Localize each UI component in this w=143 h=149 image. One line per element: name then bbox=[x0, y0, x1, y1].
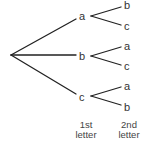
tree-diagram: a b c b c a c a b 1st letter 2nd letter bbox=[0, 0, 143, 149]
leaf-a-b: b bbox=[124, 0, 130, 11]
caption-second-line2: letter bbox=[118, 129, 139, 140]
node-b: b bbox=[79, 50, 85, 62]
edge-b-c bbox=[91, 56, 121, 65]
node-a: a bbox=[79, 10, 86, 22]
caption-first-line2: letter bbox=[75, 129, 96, 140]
leaf-b-a: a bbox=[124, 40, 131, 52]
leaf-c-b: b bbox=[124, 101, 130, 113]
edge-a-c bbox=[91, 16, 121, 25]
edge-root-a bbox=[11, 19, 76, 55]
leaf-b-c: c bbox=[124, 60, 130, 72]
leaf-c-a: a bbox=[124, 80, 131, 92]
leaf-a-c: c bbox=[124, 20, 130, 32]
edge-b-a bbox=[91, 47, 121, 56]
edge-a-b bbox=[91, 7, 121, 16]
edge-root-c bbox=[11, 55, 76, 94]
edge-c-b bbox=[91, 96, 121, 105]
edge-c-a bbox=[91, 87, 121, 96]
node-c: c bbox=[79, 91, 85, 103]
